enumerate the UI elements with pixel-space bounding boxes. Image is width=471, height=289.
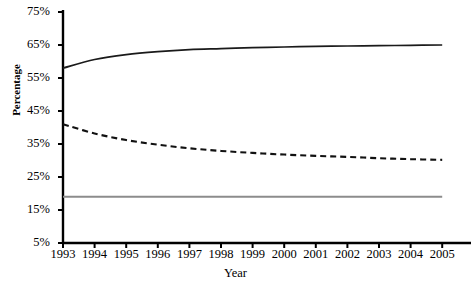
chart-container: Percentage 5%15%25%35%45%55%65%75% 19931… xyxy=(0,0,471,289)
x-tick-label: 2005 xyxy=(419,247,465,262)
series-line-solid-series xyxy=(63,45,442,68)
x-axis-title: Year xyxy=(0,266,471,281)
series-line-dashed-series xyxy=(63,124,442,160)
plot-area xyxy=(0,0,471,289)
x-axis-tick-labels: 1993199419951996199719981999200020012002… xyxy=(0,247,471,267)
